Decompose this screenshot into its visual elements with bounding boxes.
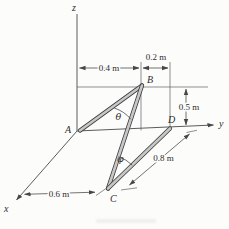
dim-label-0-4: 0.4 m	[99, 63, 120, 73]
theta-label: θ	[116, 111, 122, 122]
point-label-a: A	[64, 124, 72, 135]
z-axis-label: z	[71, 2, 76, 13]
x-axis-label: x	[3, 203, 9, 214]
faint-caption-smudge	[96, 219, 156, 223]
point-label-b: B	[147, 74, 153, 85]
point-label-c: C	[110, 193, 117, 204]
tick-08-top	[187, 130, 198, 132]
phi-label: φ	[117, 153, 124, 164]
tick-08-bottom	[121, 188, 137, 190]
dim-label-0-8: 0.8 m	[153, 153, 174, 163]
dim-label-0-6: 0.6 m	[49, 189, 70, 199]
statics-diagram: z y x A B C D θ φ 0.4 m 0.2 m 0.5 m 0.8 …	[0, 0, 229, 229]
statics-figure: z y x A B C D θ φ 0.4 m 0.2 m 0.5 m 0.8 …	[0, 0, 229, 229]
point-label-d: D	[167, 114, 176, 125]
tick-06-right	[96, 189, 106, 196]
dim-label-0-2: 0.2 m	[146, 52, 167, 62]
dim-label-0-5: 0.5 m	[179, 102, 200, 112]
y-axis-label: y	[218, 118, 224, 129]
y-axis-line	[77, 125, 214, 131]
